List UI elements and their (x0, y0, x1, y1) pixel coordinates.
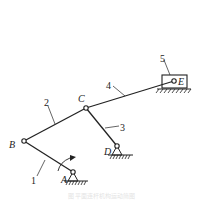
label-link-1: 1 (31, 175, 36, 186)
label-joint-b: B (9, 139, 15, 150)
leader-lines (37, 60, 170, 176)
joint-e (172, 79, 176, 83)
label-joint-a: A (60, 174, 68, 185)
ground-support-a (64, 172, 88, 185)
label-link-3: 3 (120, 122, 125, 133)
joint-b (22, 139, 26, 143)
label-link-2: 2 (44, 97, 49, 108)
link-2 (24, 108, 86, 141)
joint-a (71, 170, 75, 174)
links (24, 81, 174, 172)
ground-hatch-e (156, 89, 191, 93)
joints (22, 79, 176, 174)
label-joint-e: E (177, 76, 184, 87)
joint-d (115, 144, 119, 148)
slider-5 (156, 75, 191, 93)
joint-c (84, 106, 88, 110)
ground-support-d (108, 146, 133, 159)
label-joint-d: D (103, 146, 112, 157)
link-4 (86, 81, 174, 108)
link-1 (24, 141, 73, 172)
label-joint-c: C (78, 93, 85, 104)
figure-caption: 图 平面连杆机构运动简图 (0, 191, 203, 200)
mechanism-diagram: 5 4 2 3 1 C B D A E 图 平面连杆机构运动简图 (0, 0, 203, 204)
label-link-4: 4 (106, 80, 111, 91)
label-link-5: 5 (160, 53, 165, 64)
